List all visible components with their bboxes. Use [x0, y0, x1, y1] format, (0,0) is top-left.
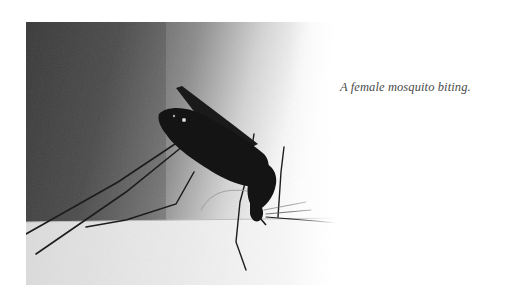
photo-figure — [26, 22, 336, 285]
figure-caption: A female mosquito biting. — [340, 80, 471, 95]
mosquito-photo — [26, 22, 336, 285]
